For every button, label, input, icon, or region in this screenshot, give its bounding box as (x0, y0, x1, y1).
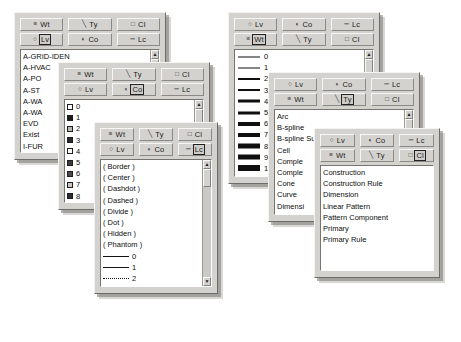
toolbar-row-bottom: ≡Wt╲Ty□Cl (234, 33, 374, 46)
toolbar-button-co[interactable]: ◐Co (139, 143, 173, 156)
toolbar-button-wt[interactable]: ≡Wt (100, 128, 134, 141)
list-item[interactable]: Dimension (323, 189, 433, 200)
toolbar-button-co[interactable]: ◐Co (360, 134, 395, 147)
toolbar-button-wt[interactable]: ≡Wt (20, 18, 63, 31)
scroll-up-icon[interactable]: ▲ (151, 50, 159, 59)
toolbar-button-lc[interactable]: ═Lc (178, 143, 212, 156)
toolbar-button-ty[interactable]: ╲Ty (360, 149, 395, 162)
list-item[interactable]: Pattern Component (323, 212, 433, 223)
toolbar-button-co[interactable]: ◐Co (282, 18, 325, 31)
toolbar-button-label: Co (88, 35, 98, 44)
color-icon: ◐ (369, 137, 373, 144)
list-item-label: 8 (76, 191, 80, 202)
toolbar-button-co[interactable]: ◐Co (112, 83, 155, 96)
color-icon: ◐ (82, 36, 86, 43)
list-item[interactable]: ( Border ) (103, 161, 202, 172)
scrollbar-track[interactable] (203, 169, 211, 277)
linecode-icon: ═ (130, 36, 135, 43)
toolbar-button-lv[interactable]: ○Lv (20, 33, 63, 46)
level-icon: ○ (330, 137, 334, 144)
color-swatch (67, 137, 73, 143)
list-item[interactable]: Construction Rule (323, 178, 433, 189)
list-item[interactable]: ( Dot ) (103, 217, 202, 228)
toolbar-button-label: Cl (182, 70, 189, 79)
toolbar-button-co[interactable]: ◐Co (68, 33, 111, 46)
toolbar-button-co[interactable]: ◐Co (322, 78, 365, 91)
toolbar: ○Lv◐Co═Lc≡Wt╲Ty□Cl (320, 133, 434, 165)
line-weight-preview (237, 85, 261, 96)
toolbar-button-lc[interactable]: ═Lc (161, 83, 204, 96)
scroll-up-icon[interactable]: ▲ (405, 110, 413, 119)
toolbar-button-lc[interactable]: ═Lc (117, 33, 160, 46)
list-item[interactable]: ( Dashdot ) (103, 183, 202, 194)
line-weight-preview (237, 118, 261, 129)
toolbar-button-cl[interactable]: □Cl (371, 93, 414, 106)
list-item[interactable]: ( Dashed ) (103, 195, 202, 206)
toolbar-button-wt[interactable]: ≡Wt (274, 93, 317, 106)
list-item-label: ( Hidden ) (103, 228, 136, 239)
toolbar-button-wt[interactable]: ≡Wt (64, 68, 107, 81)
scroll-up-icon[interactable]: ▲ (195, 100, 203, 109)
scrollbar-thumb[interactable] (203, 169, 211, 187)
list-item[interactable]: Construction (323, 167, 433, 178)
linecode-icon: ═ (174, 86, 179, 93)
list-item-label: A-ST (23, 85, 40, 96)
toolbar-button-wt[interactable]: ≡Wt (320, 149, 355, 162)
list-item-label: A-PO (23, 73, 41, 84)
scroll-up-icon[interactable]: ▲ (365, 50, 373, 59)
toolbar-row-top: ○Lv◐Co═Lc (274, 78, 414, 91)
list-item-label: Pattern Component (323, 212, 388, 223)
toolbar-button-label: Lv (40, 35, 50, 44)
toolbar-button-wt[interactable]: ≡Wt (234, 33, 277, 46)
toolbar-button-ty[interactable]: ╲Ty (282, 33, 325, 46)
toolbar-button-lv[interactable]: ○Lv (320, 134, 355, 147)
toolbar-button-lv[interactable]: ○Lv (64, 83, 107, 96)
toolbar-button-ty[interactable]: ╲Ty (68, 18, 111, 31)
list-item[interactable]: Arc (277, 111, 404, 122)
list-item[interactable]: 3 (103, 284, 202, 286)
list-item[interactable]: 2 (103, 273, 202, 284)
linecode-icon: ═ (409, 137, 414, 144)
vertical-scrollbar[interactable]: ▲▼ (202, 160, 211, 286)
toolbar-button-cl[interactable]: □Cl (178, 128, 212, 141)
toolbar-button-cl[interactable]: □Cl (117, 18, 160, 31)
toolbar-button-lc[interactable]: ═Lc (331, 18, 374, 31)
toolbar-button-ty[interactable]: ╲Ty (322, 93, 365, 106)
toolbar-button-cl[interactable]: □Cl (161, 68, 204, 81)
list-item[interactable]: Primary Rule (323, 234, 433, 245)
toolbar-button-label: Cl (138, 20, 145, 29)
list-item[interactable]: 1 (103, 262, 202, 273)
toolbar-button-lc[interactable]: ═Lc (371, 78, 414, 91)
list-item[interactable]: Linear Pattern (323, 201, 433, 212)
scroll-down-icon[interactable]: ▼ (203, 277, 211, 286)
list-item[interactable]: 0 (237, 51, 364, 62)
list-item[interactable]: ( Center ) (103, 172, 202, 183)
toolbar-button-label: Lc (182, 85, 190, 94)
toolbar-button-lc[interactable]: ═Lc (399, 134, 434, 147)
list-item[interactable]: ( Phantom ) (103, 239, 202, 250)
list-item[interactable]: Primary (323, 223, 433, 234)
linecode-panel[interactable]: ≡Wt╲Ty□Cl○Lv◐Co═Lc( Border )( Center )( … (94, 122, 218, 294)
list-item[interactable]: A-GRID-IDEN (23, 51, 150, 62)
toolbar-button-cl[interactable]: □Cl (331, 33, 374, 46)
toolbar-button-lv[interactable]: ○Lv (234, 18, 277, 31)
toolbar-button-cl[interactable]: □Cl (399, 149, 434, 162)
list-item[interactable]: ( Divide ) (103, 206, 202, 217)
list-item[interactable]: 0 (103, 251, 202, 262)
toolbar-button-label: Co (375, 136, 385, 145)
linetype-icon: ╲ (369, 152, 373, 159)
line-weight-preview (237, 96, 261, 107)
line-style-preview (103, 273, 129, 284)
toolbar-button-lv[interactable]: ○Lv (100, 143, 134, 156)
list-item[interactable]: 0 (67, 101, 194, 112)
list-item-label: Ellipse (277, 212, 299, 214)
list-item[interactable]: ( Hidden ) (103, 228, 202, 239)
toolbar-button-lv[interactable]: ○Lv (274, 78, 317, 91)
toolbar-button-ty[interactable]: ╲Ty (139, 128, 173, 141)
weight-icon: ≡ (109, 131, 113, 138)
list-box: ( Border )( Center )( Dashdot )( Dashed … (100, 159, 212, 287)
toolbar-button-ty[interactable]: ╲Ty (112, 68, 155, 81)
scroll-up-icon[interactable]: ▲ (203, 160, 211, 169)
class-panel[interactable]: ○Lv◐Co═Lc≡Wt╲Ty□ClConstructionConstructi… (314, 128, 440, 278)
list-items: ( Border )( Center )( Dashdot )( Dashed … (101, 160, 202, 286)
